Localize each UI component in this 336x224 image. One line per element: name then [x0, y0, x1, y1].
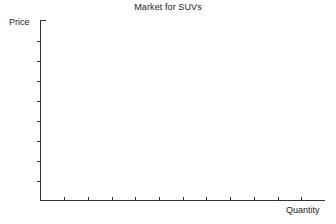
- plot-area-background: [40, 20, 325, 200]
- y-axis-ticks: [37, 42, 41, 182]
- chart-figure: Market for SUVs Price Quantity: [0, 0, 336, 224]
- plot-canvas: [0, 0, 336, 224]
